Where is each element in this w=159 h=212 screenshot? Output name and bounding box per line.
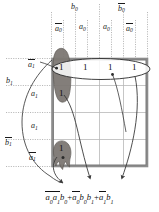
kmap-canvas [0,0,159,212]
cell-r0c3: 1 [132,63,137,72]
left-label-a1-bar-bottom: a1 [29,152,36,162]
top-label-a0-midright: a0 [103,23,110,31]
cell-r0c0: 1 [59,63,64,72]
left-label-a1-lower: a1 [31,122,38,130]
equation-term-2: a0b0b1 [72,192,94,202]
left-label-a1-upper: a1 [31,90,38,98]
left-label-b1-bar: b1 [5,137,12,147]
row-guides [6,59,52,167]
left-label-a1-bar-top: a1 [28,59,35,69]
column-guides [52,4,148,58]
boolean-equation: a0a1b0+a0b0b1+a1b1 [0,191,159,203]
cell-r1c0: 1 [59,89,64,98]
cell-r0c1: 1 [83,63,88,72]
equation-term-1: a0a1b0 [45,192,67,202]
equation-term-3: a1b1 [99,192,114,202]
cell-r0c2: 1 [108,63,113,72]
top-label-a0-bar-right: a0 [126,23,133,33]
top-label-b0: b0 [71,3,78,11]
top-label-a0-bar-left: a0 [55,23,62,33]
left-label-b1: b1 [6,77,13,85]
top-label-b0-bar: b0 [118,3,125,13]
arrow-term3 [122,76,137,178]
top-label-a0-midleft: a0 [79,23,86,31]
kmap-figure: b0 b0 a0 a0 a0 a0 a1 b1 a1 a1 b1 a1 1 1 … [0,0,159,212]
cell-r3c0: 1 [59,144,64,153]
